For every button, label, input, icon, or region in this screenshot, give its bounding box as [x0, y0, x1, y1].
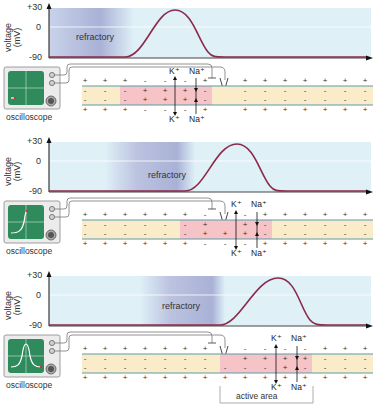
svg-text:+: + [283, 76, 288, 85]
svg-text:+: + [323, 373, 328, 382]
svg-text:-: - [284, 229, 287, 238]
svg-text:+: + [263, 373, 268, 382]
svg-text:+: + [263, 239, 268, 248]
svg-text:-: - [304, 363, 307, 372]
svg-text:+: + [343, 105, 348, 114]
svg-text:-: - [164, 76, 167, 85]
svg-text:-: - [124, 354, 127, 363]
input-jack-icon [49, 80, 54, 85]
svg-text:+: + [323, 76, 328, 85]
svg-text:+: + [183, 344, 188, 353]
svg-text:+: + [143, 86, 148, 95]
svg-text:-: - [84, 363, 87, 372]
svg-text:+: + [83, 239, 88, 248]
svg-text:-: - [204, 363, 207, 372]
svg-text:+: + [283, 239, 288, 248]
svg-text:-: - [84, 354, 87, 363]
svg-text:-: - [124, 220, 127, 229]
svg-text:-: - [224, 239, 227, 248]
tick-minus90: -90 [29, 320, 42, 330]
svg-text:-: - [264, 95, 267, 104]
tick-plus30: +30 [27, 136, 42, 146]
svg-text:-: - [304, 344, 307, 353]
svg-text:+: + [263, 210, 268, 219]
svg-text:+: + [243, 105, 248, 114]
panel-1-graphic: +++ --- + +++ ++++ --- +++ - --- ---- --… [0, 0, 374, 130]
svg-text:+: + [103, 105, 108, 114]
svg-text:-: - [244, 86, 247, 95]
svg-text:+: + [243, 354, 248, 363]
svg-text:+: + [103, 239, 108, 248]
k-ion-bottom: K⁺ [169, 114, 180, 124]
svg-text:+: + [123, 105, 128, 114]
svg-text:+: + [223, 229, 228, 238]
svg-text:+: + [303, 210, 308, 219]
svg-text:-: - [144, 105, 147, 114]
y-axis-arrow-icon [47, 3, 52, 9]
svg-text:-: - [84, 95, 87, 104]
svg-text:+: + [343, 210, 348, 219]
refractory-label: refractory [148, 170, 186, 180]
k-ion-top: K⁺ [271, 333, 282, 343]
svg-text:-: - [244, 210, 247, 219]
svg-text:+: + [243, 373, 248, 382]
tick-zero: 0 [36, 156, 41, 166]
svg-text:-: - [164, 220, 167, 229]
svg-text:+: + [243, 229, 248, 238]
na-ion-bottom: Na⁺ [291, 382, 307, 392]
svg-text:+: + [163, 344, 168, 353]
svg-text:+: + [183, 373, 188, 382]
svg-text:-: - [364, 220, 367, 229]
oscilloscope-label: oscilloscope [6, 246, 52, 256]
svg-text:-: - [304, 86, 307, 95]
input-jack-icon [49, 214, 54, 219]
svg-text:+: + [203, 105, 208, 114]
svg-text:-: - [204, 95, 207, 104]
svg-text:-: - [244, 239, 247, 248]
svg-text:-: - [204, 239, 207, 248]
svg-text:+: + [203, 220, 208, 229]
svg-text:+: + [143, 95, 148, 104]
svg-text:-: - [124, 229, 127, 238]
na-ion-bottom: Na⁺ [189, 114, 205, 124]
svg-text:-: - [184, 363, 187, 372]
svg-text:-: - [304, 229, 307, 238]
svg-text:+: + [103, 76, 108, 85]
svg-text:-: - [184, 229, 187, 238]
svg-text:+: + [163, 239, 168, 248]
svg-text:-: - [104, 354, 107, 363]
panel-3: +++++++ ---- +++ ------- ++++ --- ------… [0, 268, 374, 405]
svg-text:+: + [283, 210, 288, 219]
svg-text:+: + [363, 239, 368, 248]
svg-text:+: + [183, 86, 188, 95]
svg-text:+: + [343, 344, 348, 353]
svg-text:+: + [163, 373, 168, 382]
svg-text:-: - [364, 86, 367, 95]
svg-text:+: + [203, 76, 208, 85]
svg-text:+: + [183, 239, 188, 248]
svg-text:+: + [263, 76, 268, 85]
svg-text:-: - [344, 95, 347, 104]
svg-text:+: + [123, 210, 128, 219]
svg-text:-: - [264, 220, 267, 229]
svg-text:-: - [204, 210, 207, 219]
svg-text:+: + [143, 210, 148, 219]
svg-text:-: - [224, 363, 227, 372]
svg-text:+: + [103, 344, 108, 353]
input-jack-icon [49, 348, 54, 353]
svg-text:+: + [143, 344, 148, 353]
svg-text:-: - [164, 229, 167, 238]
svg-text:+: + [163, 86, 168, 95]
svg-text:-: - [124, 95, 127, 104]
svg-text:-: - [324, 229, 327, 238]
svg-text:+: + [283, 354, 288, 363]
svg-text:+: + [323, 210, 328, 219]
svg-text:+: + [243, 220, 248, 229]
svg-text:-: - [84, 86, 87, 95]
svg-text:+: + [83, 210, 88, 219]
svg-text:-: - [144, 229, 147, 238]
svg-text:-: - [344, 86, 347, 95]
svg-text:+: + [343, 239, 348, 248]
svg-text:-: - [284, 86, 287, 95]
svg-text:+: + [83, 373, 88, 382]
